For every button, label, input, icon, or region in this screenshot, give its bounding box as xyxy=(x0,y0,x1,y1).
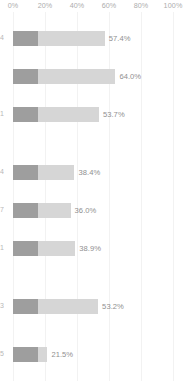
category-label-truncated: 1 xyxy=(0,244,4,251)
bar[interactable] xyxy=(13,69,115,84)
bar-segment-leading xyxy=(13,203,38,218)
bar-row[interactable]: 457.4% xyxy=(0,31,194,46)
bar[interactable] xyxy=(13,241,75,256)
bar-row[interactable]: 64.0% xyxy=(0,69,194,84)
bar-row[interactable]: 153.7% xyxy=(0,107,194,122)
category-label-truncated: 7 xyxy=(0,206,4,213)
bar-row[interactable]: 438.4% xyxy=(0,165,194,180)
bar-rows: 457.4%64.0%153.7%438.4%736.0%138.9%353.2… xyxy=(0,0,194,381)
bar-segment-leading xyxy=(13,299,38,314)
bar[interactable] xyxy=(13,347,47,362)
bar-value-label: 21.5% xyxy=(51,350,73,359)
category-label-truncated: 3 xyxy=(0,302,4,309)
bar-segment-leading xyxy=(13,165,38,180)
horizontal-bar-chart: 0%20%40%60%80%100% 457.4%64.0%153.7%438.… xyxy=(0,0,194,381)
bar-segment-leading xyxy=(13,241,38,256)
bar-row[interactable]: 521.5% xyxy=(0,347,194,362)
category-label-truncated: 1 xyxy=(0,110,4,117)
bar[interactable] xyxy=(13,107,99,122)
bar-value-label: 53.7% xyxy=(103,110,125,119)
category-label-truncated: 4 xyxy=(0,168,4,175)
bar[interactable] xyxy=(13,203,71,218)
bar-row[interactable]: 138.9% xyxy=(0,241,194,256)
bar-segment-leading xyxy=(13,347,38,362)
bar-row[interactable]: 353.2% xyxy=(0,299,194,314)
bar-value-label: 36.0% xyxy=(75,206,97,215)
bar-segment-leading xyxy=(13,31,38,46)
bar-value-label: 57.4% xyxy=(109,34,131,43)
bar-value-label: 64.0% xyxy=(119,72,141,81)
category-label-truncated: 4 xyxy=(0,34,4,41)
bar-segment-leading xyxy=(13,107,38,122)
bar[interactable] xyxy=(13,299,98,314)
bar[interactable] xyxy=(13,31,105,46)
bar-value-label: 53.2% xyxy=(102,302,124,311)
category-label-truncated: 5 xyxy=(0,350,4,357)
bar[interactable] xyxy=(13,165,74,180)
bar-segment-leading xyxy=(13,69,38,84)
bar-value-label: 38.9% xyxy=(79,244,101,253)
bar-row[interactable]: 736.0% xyxy=(0,203,194,218)
bar-value-label: 38.4% xyxy=(78,168,100,177)
